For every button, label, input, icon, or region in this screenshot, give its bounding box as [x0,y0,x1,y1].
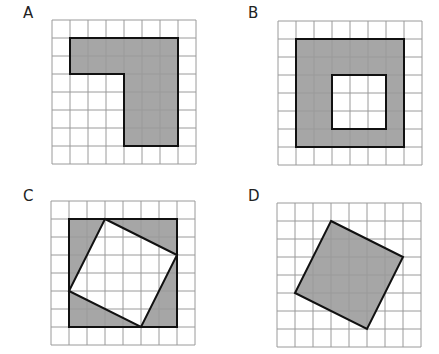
unshaded-shape [332,75,386,129]
label-c: C [23,189,33,204]
panel-b [277,20,423,166]
label-b: B [248,6,258,21]
grid-figure [276,202,422,348]
panel-d [276,202,422,348]
label-d: D [248,189,260,204]
grid-figure [51,19,197,165]
panel-a [51,19,197,165]
panel-c [50,200,196,346]
grid-figure [50,200,196,346]
grid-figure [277,20,423,166]
label-a: A [23,6,33,21]
